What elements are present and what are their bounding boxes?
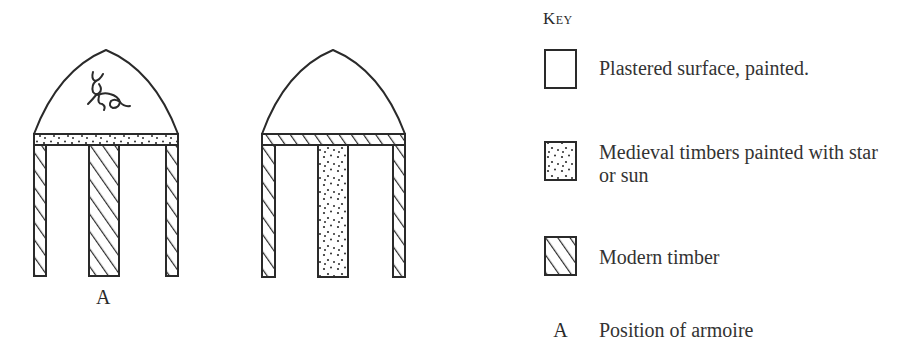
key-item-medieval-timber: Medieval timbers painted with star or su… — [545, 141, 879, 187]
key-item-armoire: A Position of armoire — [545, 319, 753, 342]
post-modern — [34, 145, 46, 276]
deer-motif-icon — [88, 72, 130, 110]
tympanum-arch — [262, 50, 405, 134]
beam-modern — [262, 134, 405, 145]
key-label: Modern timber — [599, 246, 720, 269]
key-item-modern-timber: Modern timber — [545, 246, 720, 269]
post-modern — [89, 145, 119, 276]
key-title: Key — [543, 9, 573, 29]
post-modern — [393, 145, 405, 277]
key-label: Position of armoire — [599, 319, 753, 342]
left-bay — [34, 50, 178, 276]
beam-medieval-painted — [34, 134, 178, 145]
post-modern — [166, 145, 178, 276]
armoire-position-label: A — [96, 286, 110, 309]
key-label: Medieval timbers painted with star or su… — [599, 141, 879, 187]
key-label: Plastered surface, painted. — [599, 57, 809, 80]
key-item-plastered: Plastered surface, painted. — [545, 57, 809, 80]
post-modern — [262, 145, 275, 277]
post-medieval-painted — [318, 145, 348, 277]
right-bay — [262, 50, 405, 277]
tympanum-arch — [34, 50, 178, 134]
armoire-symbol: A — [545, 319, 576, 342]
